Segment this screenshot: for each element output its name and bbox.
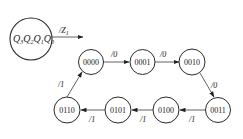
transition-label: /1 — [57, 80, 64, 89]
state-label: 0100 — [158, 106, 174, 115]
state-0001: 0001 — [130, 50, 155, 75]
state-diagram: Q3Q2Q1Q0 /Z1 /0 /0 /0 /1 /1 /1 /1 0000 0… — [0, 0, 243, 139]
state-label: 0110 — [59, 106, 75, 115]
state-label: 0101 — [110, 106, 126, 115]
legend-state-variables: Q3Q2Q1Q0 — [13, 33, 54, 45]
transition-0110-0000 — [67, 72, 82, 97]
transition-label: /1 — [139, 115, 146, 124]
state-label: 0011 — [210, 106, 226, 115]
state-label: 0010 — [184, 58, 200, 67]
transition-label: /0 — [110, 50, 117, 59]
legend-output-label: /Z1 — [58, 26, 69, 36]
state-0000: 0000 — [79, 50, 104, 75]
transition-label: /1 — [188, 115, 195, 124]
state-0010: 0010 — [179, 49, 205, 75]
states: 0000 0001 0010 0011 0100 0101 0110 — [54, 49, 231, 123]
state-0100: 0100 — [153, 97, 179, 123]
state-0011: 0011 — [206, 98, 231, 123]
legend: Q3Q2Q1Q0 /Z1 — [10, 18, 83, 60]
state-label: 0001 — [135, 58, 151, 67]
state-0110: 0110 — [54, 97, 80, 123]
transition-label: /0 — [210, 81, 217, 90]
transition-label: /1 — [88, 115, 95, 124]
transition-label: /0 — [159, 50, 166, 59]
state-0101: 0101 — [105, 97, 131, 123]
state-label: 0000 — [83, 58, 99, 67]
